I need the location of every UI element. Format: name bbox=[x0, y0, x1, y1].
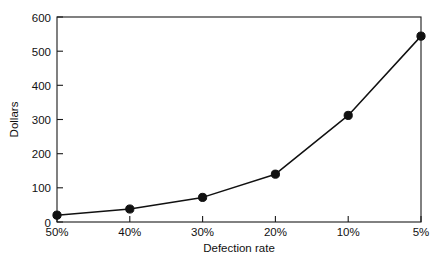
data-point-5pct bbox=[417, 32, 425, 40]
line-chart-svg: 600 500 400 300 200 100 0 Dollars 50% 40… bbox=[0, 0, 447, 269]
y-tick-label-500: 500 bbox=[32, 46, 51, 58]
x-tick-label-5: 5% bbox=[413, 226, 430, 238]
y-tick-label-100: 100 bbox=[32, 182, 51, 194]
data-point-10pct bbox=[344, 111, 352, 119]
y-axis-title: Dollars bbox=[8, 101, 20, 137]
data-point-30pct bbox=[199, 193, 207, 201]
data-point-20pct bbox=[271, 170, 279, 178]
y-tick-label-600: 600 bbox=[32, 12, 51, 24]
x-tick-label-50: 50% bbox=[45, 226, 68, 238]
x-tick-label-20: 20% bbox=[264, 226, 287, 238]
x-tick-label-30: 30% bbox=[191, 226, 214, 238]
data-point-50pct bbox=[53, 211, 61, 219]
y-tick-label-200: 200 bbox=[32, 148, 51, 160]
x-axis-title: Defection rate bbox=[203, 242, 275, 254]
x-tick-label-10: 10% bbox=[337, 226, 360, 238]
y-tick-label-300: 300 bbox=[32, 114, 51, 126]
x-tick-label-40: 40% bbox=[118, 226, 141, 238]
y-tick-label-400: 400 bbox=[32, 80, 51, 92]
chart-figure: 600 500 400 300 200 100 0 Dollars 50% 40… bbox=[0, 0, 447, 269]
data-point-40pct bbox=[126, 205, 134, 213]
